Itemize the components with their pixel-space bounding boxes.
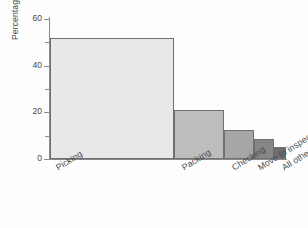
y-tick-label-container: 20 [14,107,42,117]
y-tick-label: 0 [16,154,42,163]
y-tick-label: 20 [16,107,42,116]
y-tick-label-container: 0 [14,154,42,164]
y-tick-0 [44,159,50,160]
y-tick-label: 40 [16,61,42,70]
y-tick-label-container: 40 [14,61,42,71]
bars-container [50,19,286,159]
bar-0[interactable] [50,38,174,159]
bar-chart: Percentage of time 0204060 PickingPackin… [0,0,308,228]
y-tick-label: 60 [16,14,42,23]
y-tick-label-container: 60 [14,14,42,24]
